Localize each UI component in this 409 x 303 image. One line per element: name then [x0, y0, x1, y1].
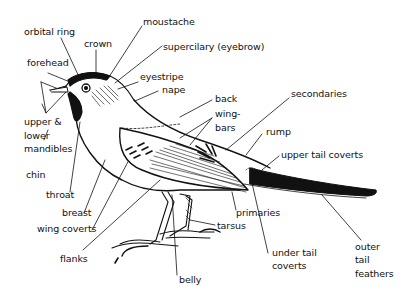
label-eyestripe: eyestripe — [140, 70, 184, 83]
label-outer-tail-feathers-line3: feathers — [355, 267, 394, 280]
label-wingbars-line1: wing- — [215, 107, 240, 120]
label-flanks: flanks — [60, 252, 88, 265]
label-mandibles-line3: mandibles — [24, 142, 72, 155]
label-throat: throat — [46, 188, 74, 201]
label-crown: crown — [84, 37, 112, 50]
label-orbital-ring: orbital ring — [24, 25, 75, 38]
label-wing-coverts: wing coverts — [37, 222, 96, 235]
label-back: back — [215, 92, 237, 105]
label-primaries: primaries — [236, 206, 280, 219]
label-chin: chin — [26, 168, 46, 181]
bird-body — [76, 100, 270, 191]
label-breast: breast — [62, 206, 91, 219]
label-supercilary: supercilary (eyebrow) — [163, 40, 264, 53]
label-forehead: forehead — [27, 56, 69, 69]
bird-tail — [244, 168, 376, 198]
label-tarsus: tarsus — [217, 219, 246, 232]
label-under-tail-coverts-line2: coverts — [272, 259, 306, 272]
label-moustache: moustache — [143, 15, 195, 28]
label-secondaries: secondaries — [291, 87, 347, 100]
bird-legs — [112, 192, 220, 263]
label-mandibles-line1: upper & — [24, 115, 62, 128]
bird-head — [50, 73, 134, 121]
label-nape: nape — [162, 83, 185, 96]
label-wingbars-line2: bars — [215, 121, 235, 134]
label-rump: rump — [266, 125, 291, 138]
label-mandibles-line2: lower — [24, 129, 49, 142]
label-outer-tail-feathers-line1: outer — [355, 240, 380, 253]
bird-anatomy-diagram: orbital ring crown moustache supercilary… — [0, 0, 409, 303]
label-under-tail-coverts-line1: under tail — [272, 246, 317, 259]
label-belly: belly — [179, 273, 201, 286]
label-upper-tail-coverts: upper tail coverts — [281, 148, 363, 161]
label-outer-tail-feathers-line2: tail — [355, 253, 369, 266]
